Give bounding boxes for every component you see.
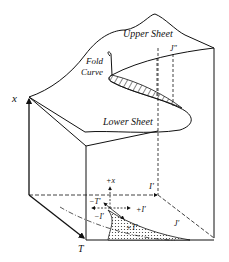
fold-label: Fold xyxy=(85,56,103,66)
t-axis-label: T xyxy=(78,243,85,254)
t-axis-arrow xyxy=(29,195,84,238)
fold-hatched-region xyxy=(109,75,182,108)
plus-x-label: +x xyxy=(106,176,115,185)
j-double-prime-label: J″ xyxy=(170,44,178,53)
upper-sheet-label: Upper Sheet xyxy=(123,28,173,39)
plus-t-prime-label: +T′ xyxy=(126,223,138,232)
i-prime-label: I′ xyxy=(148,181,155,191)
cusp-catastrophe-diagram: Upper Sheet Lower Sheet Fold Curve J″ x … xyxy=(0,0,229,262)
fold-hook xyxy=(108,52,112,75)
curve-label: Curve xyxy=(81,67,103,77)
j-prime-label: J′ xyxy=(174,219,180,228)
x-axis-label: x xyxy=(11,92,17,104)
plus-i-prime-label: +I′ xyxy=(136,205,146,214)
minus-i-prime-label: −I′ xyxy=(94,212,104,221)
lower-sheet-label: Lower Sheet xyxy=(102,116,153,127)
minus-t-prime-label: −T′ xyxy=(89,197,101,206)
